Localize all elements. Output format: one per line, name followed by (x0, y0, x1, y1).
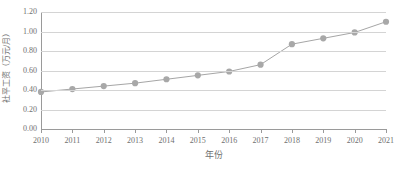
y-gridline (41, 71, 386, 72)
y-gridline (41, 12, 386, 13)
data-point-marker (132, 80, 138, 86)
y-axis-tick-label: 1.20 (23, 8, 37, 16)
x-axis-tick-label: 2017 (253, 136, 269, 146)
x-axis-tick-labels: 2010201120122013201420152016201720182019… (41, 136, 386, 148)
x-axis-tick (72, 129, 73, 133)
y-gridline (41, 51, 386, 52)
x-axis-tick (41, 129, 42, 133)
y-axis-title: 社平工资（万元/月） (0, 0, 14, 132)
data-point-marker (289, 41, 295, 47)
x-axis-tick-label: 2019 (315, 136, 331, 146)
data-point-marker (101, 83, 107, 89)
x-axis-tick-label: 2018 (284, 136, 300, 146)
y-axis-tick-label: 0.80 (23, 47, 37, 55)
y-axis-tick-label: 1.00 (23, 28, 37, 36)
data-point-marker (257, 62, 263, 68)
y-axis-tick-label: 0.00 (23, 125, 37, 133)
data-point-marker (195, 72, 201, 78)
x-axis-tick-label: 2011 (65, 136, 81, 146)
x-axis-tick (166, 129, 167, 133)
y-gridline (41, 90, 386, 91)
x-axis-tick (323, 129, 324, 133)
x-axis-tick (292, 129, 293, 133)
x-axis-tick (386, 129, 387, 133)
x-axis-ticks (41, 129, 386, 135)
data-point-marker (383, 19, 389, 25)
y-axis-tick-labels: 0.000.200.400.600.801.001.20 (13, 0, 39, 140)
x-axis-tick-label: 2012 (96, 136, 112, 146)
y-axis-title-label: 社平工资（万元/月） (3, 29, 11, 103)
x-axis-tick (229, 129, 230, 133)
x-axis-tick (135, 129, 136, 133)
x-axis-tick (355, 129, 356, 133)
x-axis-tick (104, 129, 105, 133)
y-axis-tick-label: 0.40 (23, 86, 37, 94)
line-chart-figure: 社平工资（万元/月） 0.000.200.400.600.801.001.20 … (0, 0, 402, 173)
x-axis-tick-label: 2010 (33, 136, 49, 146)
y-axis-tick-label: 0.20 (23, 106, 37, 114)
x-axis-tick-label: 2020 (347, 136, 363, 146)
plot-area (41, 12, 386, 129)
y-gridline (41, 110, 386, 111)
data-point-marker (163, 76, 169, 82)
x-axis-tick-label: 2014 (158, 136, 174, 146)
x-axis-tick (261, 129, 262, 133)
x-axis-tick-label: 2015 (190, 136, 206, 146)
x-axis-tick-label: 2021 (378, 136, 394, 146)
y-gridline (41, 32, 386, 33)
x-axis-tick (198, 129, 199, 133)
y-axis-tick-label: 0.60 (23, 67, 37, 75)
x-axis-tick-label: 2016 (221, 136, 237, 146)
x-axis-title: 年份 (41, 150, 386, 161)
x-axis-tick-label: 2013 (127, 136, 143, 146)
data-point-marker (320, 35, 326, 41)
